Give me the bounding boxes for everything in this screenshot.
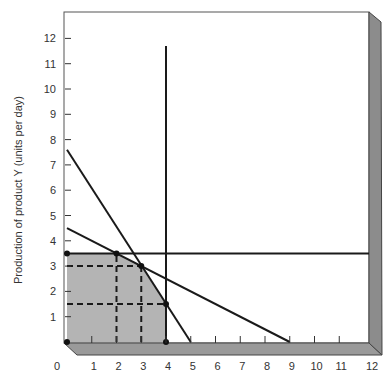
x-tick-label: 10: [310, 360, 322, 372]
x-tick-label: 11: [336, 360, 347, 372]
corner-point-dot: [138, 263, 144, 269]
x-tick-label: 0: [54, 360, 60, 372]
x-tick-label: 12: [366, 360, 378, 372]
y-tick-label: 3: [50, 260, 56, 272]
x-tick-label: 6: [214, 360, 220, 372]
side-panel: [369, 12, 382, 355]
y-tick-label: 2: [50, 285, 56, 297]
x-tick-label: 3: [140, 360, 146, 372]
y-tick-label: 5: [50, 210, 56, 222]
corner-point-dot: [64, 339, 70, 345]
y-tick-label: 11: [45, 58, 56, 70]
x-tick-label: 9: [289, 360, 295, 372]
corner-point-dot: [64, 250, 70, 256]
y-tick-label: 9: [50, 108, 56, 120]
corner-point-dot: [114, 250, 120, 256]
x-tick-label: 7: [239, 360, 245, 372]
x-tick-label: 1: [91, 360, 97, 372]
x-tick-label: 8: [264, 360, 270, 372]
floor-panel: [64, 343, 382, 355]
y-tick-label: 6: [50, 184, 56, 196]
y-tick-label: 4: [50, 235, 56, 247]
y-tick-label: 7: [50, 159, 56, 171]
x-tick-label: 5: [190, 360, 196, 372]
y-tick-label: 12: [44, 32, 56, 44]
y-axis-title: Production of product Y (units per day): [12, 96, 24, 284]
linear-programming-chart: 0123456789101112 123456789101112 Product…: [0, 0, 387, 391]
x-tick-label: 2: [115, 360, 121, 372]
x-tick-label: 4: [165, 360, 171, 372]
corner-point-dot: [163, 301, 169, 307]
y-tick-label: 10: [44, 83, 56, 95]
y-tick-label: 1: [50, 311, 56, 323]
y-tick-label: 8: [50, 134, 56, 146]
